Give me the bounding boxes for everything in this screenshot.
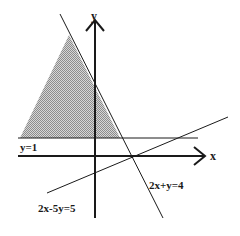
label-2x-plus-y-equals-4: 2x+y=4 [149, 179, 184, 191]
graph-diagram: y x y=1 2x+y=4 2x-5y=5 [0, 0, 240, 236]
shaded-region [20, 35, 120, 138]
x-axis-label: x [210, 149, 216, 163]
y-axis-label: y [91, 9, 97, 23]
label-y-equals-1: y=1 [20, 141, 37, 153]
label-2x-minus-5y-equals-5: 2x-5y=5 [38, 202, 76, 214]
